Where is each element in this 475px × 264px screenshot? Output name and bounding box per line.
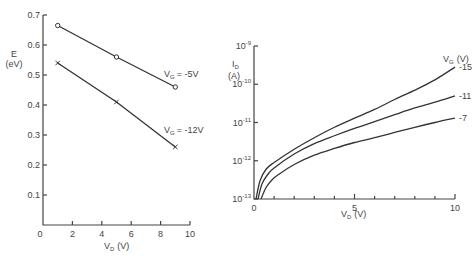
y-tick-label: 10-11: [233, 117, 252, 128]
x-tick-label: 0: [251, 203, 256, 213]
annotation-vg-5: VG= -5V: [164, 69, 198, 80]
x-tick-label: 10: [185, 229, 195, 239]
y-tick-label: 0.2: [27, 160, 40, 170]
left-y-ticks: 0.10.20.30.40.50.60.7: [27, 10, 47, 200]
y-tick-label: 0.5: [27, 70, 40, 80]
x-tick-label: 8: [158, 229, 163, 239]
right-curve-labels: -15-11-7: [459, 62, 472, 123]
curve-label: -11: [459, 91, 471, 101]
annotation-vg-12: VG= -12V: [164, 125, 203, 136]
right-y-label: ID: [232, 59, 240, 70]
circle-marker: [114, 55, 118, 59]
right-series: [256, 67, 455, 199]
left-y-unit: (eV): [5, 59, 22, 69]
curve-label: -15: [459, 62, 472, 72]
figure: 0.10.20.30.40.50.60.7 246810 E (eV) 0 VD…: [0, 0, 475, 264]
curve-label: -7: [459, 113, 467, 123]
x-tick-label: 10: [450, 203, 460, 213]
left-x-label: VD(V): [104, 241, 129, 252]
circle-marker: [56, 23, 60, 27]
series-curve: [258, 96, 455, 199]
x-marker: [114, 100, 118, 104]
series-line: [58, 63, 176, 147]
y-tick-label: 10-13: [232, 193, 251, 204]
x-marker: [56, 61, 60, 65]
left-series: [56, 23, 178, 149]
left-x-ticks: 246810: [70, 221, 195, 239]
x-tick-label: 2: [70, 229, 75, 239]
energy-chart: 0.10.20.30.40.50.60.7 246810 E (eV) 0 VD…: [5, 10, 203, 252]
right-axes: [254, 46, 455, 199]
y-tick-label: 0.6: [27, 40, 40, 50]
left-y-label: E: [11, 49, 17, 59]
current-chart: 10-1310-1210-1110-1010-9 0510 ID (A) VD(…: [228, 40, 472, 220]
x-tick-label: 4: [99, 229, 104, 239]
left-origin-label: 0: [37, 229, 42, 239]
series-curve: [261, 118, 455, 199]
y-tick-label: 0.4: [27, 100, 40, 110]
y-tick-label: 0.1: [27, 190, 40, 200]
right-y-unit: (A): [228, 71, 240, 81]
y-tick-label: 0.7: [27, 10, 40, 20]
x-tick-label: 6: [129, 229, 134, 239]
circle-marker: [173, 85, 177, 89]
x-marker: [173, 145, 177, 149]
left-axes: [43, 15, 190, 225]
series-curve: [256, 67, 455, 199]
right-x-label: VD(V): [341, 209, 366, 220]
y-tick-label: 10-12: [232, 155, 251, 166]
y-tick-label: 10-9: [236, 40, 252, 51]
y-tick-label: 0.3: [27, 130, 40, 140]
